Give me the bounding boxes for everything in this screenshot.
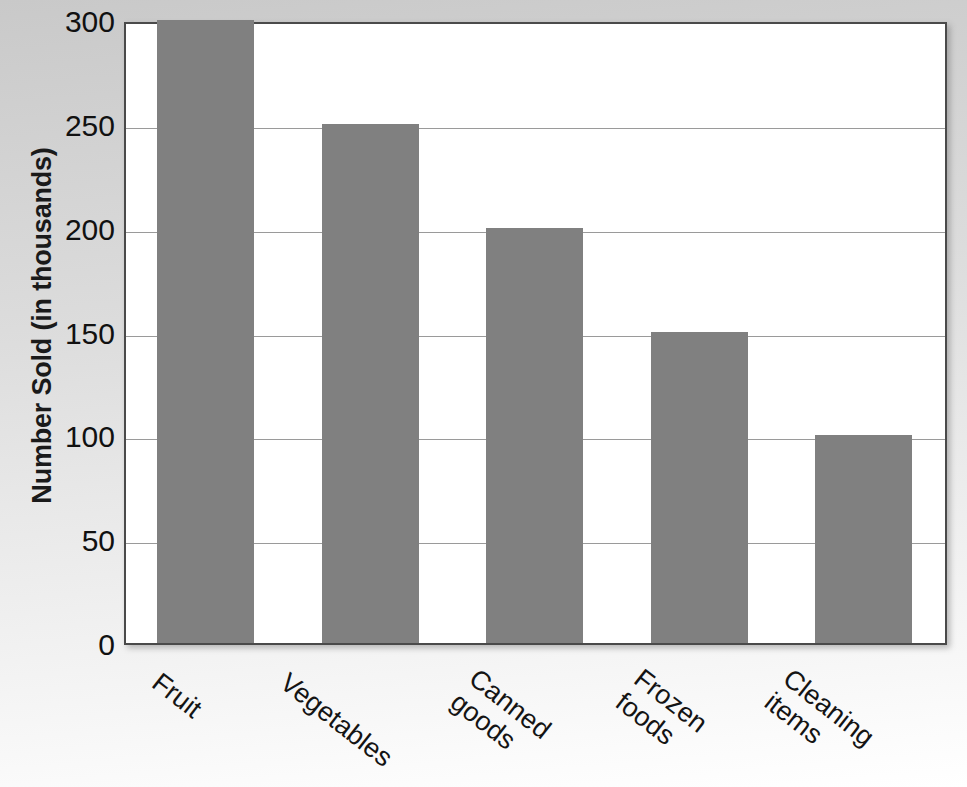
y-tick-label: 250 [5, 111, 124, 141]
bar [157, 20, 254, 643]
plot-area [124, 22, 947, 645]
y-tick-label: 100 [5, 422, 124, 452]
bar [322, 124, 419, 643]
x-tick-label: Frozen foods [610, 663, 713, 762]
bar [815, 435, 912, 643]
y-axis-tick-labels: 300250200150100500 [0, 0, 124, 787]
x-tick-label: Vegetables [274, 667, 398, 773]
y-tick-label: 0 [5, 630, 124, 660]
x-tick-label: Cleaning items [759, 663, 880, 776]
bar-chart-figure: Number Sold (in thousands) 3002502001501… [0, 0, 967, 787]
x-tick-label: Fruit [146, 667, 207, 724]
x-axis-tick-labels: FruitVegetablesCanned goodsFrozen foodsC… [124, 645, 947, 787]
x-tick-label: Canned goods [445, 663, 557, 769]
bar [486, 228, 583, 643]
y-tick-label: 150 [5, 319, 124, 349]
y-tick-label: 300 [5, 7, 124, 37]
y-tick-label: 50 [5, 526, 124, 556]
y-tick-label: 200 [5, 215, 124, 245]
bar [651, 332, 748, 644]
